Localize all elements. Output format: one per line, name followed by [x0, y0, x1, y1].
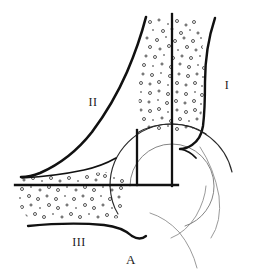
- region-label-ii: II: [89, 96, 98, 108]
- talus-faint-outline: [150, 147, 220, 268]
- calcaneal-body-stipple: [19, 162, 123, 219]
- tibia-medial-contour: [21, 17, 146, 177]
- panel-label-a: A: [126, 253, 136, 266]
- calcaneus-inferior-contour: [28, 224, 146, 239]
- region-label-i: I: [225, 79, 230, 91]
- anatomical-figure-panel: I II III A: [0, 0, 263, 279]
- region-label-iii: III: [72, 236, 86, 248]
- figure-line-art: [0, 0, 263, 279]
